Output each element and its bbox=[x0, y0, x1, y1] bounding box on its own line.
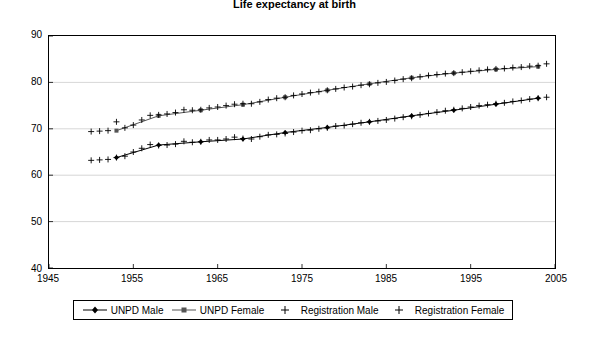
chart-legend: UNPD Male UNPD Female Registration Male bbox=[73, 300, 513, 320]
x-tick-label-1945: 1945 bbox=[28, 274, 68, 284]
y-tick-label-80: 80 bbox=[8, 77, 42, 87]
y-tick-label-90: 90 bbox=[8, 30, 42, 40]
series-registration-female bbox=[88, 61, 549, 135]
legend-item-registration-male: Registration Male bbox=[272, 305, 379, 316]
x-tick-label-1965: 1965 bbox=[197, 274, 237, 284]
x-tick-label-1955: 1955 bbox=[112, 274, 152, 284]
plot-area bbox=[48, 35, 556, 269]
legend-marker-diamond-line-icon bbox=[82, 305, 108, 315]
legend-item-unpd-female: UNPD Female bbox=[171, 305, 264, 316]
x-tick-label-1995: 1995 bbox=[451, 274, 491, 284]
legend-marker-plus-icon bbox=[272, 305, 298, 315]
x-tick-label-1975: 1975 bbox=[282, 274, 322, 284]
legend-marker-square-line-icon bbox=[171, 305, 197, 315]
legend-label-registration-female: Registration Female bbox=[415, 305, 504, 316]
plot-svg bbox=[49, 36, 555, 268]
legend-label-registration-male: Registration Male bbox=[301, 305, 379, 316]
y-tick-label-60: 60 bbox=[8, 170, 42, 180]
series-unpd-female bbox=[114, 65, 540, 133]
chart-title: Life expectancy at birth bbox=[0, 0, 589, 10]
legend-label-unpd-male: UNPD Male bbox=[111, 305, 164, 316]
chart-container: Life expectancy at birth 90 80 70 60 50 … bbox=[0, 0, 589, 339]
x-tick-label-1985: 1985 bbox=[366, 274, 406, 284]
legend-marker-plus-icon bbox=[386, 305, 412, 315]
legend-item-registration-female: Registration Female bbox=[386, 305, 504, 316]
y-tick-label-70: 70 bbox=[8, 124, 42, 134]
legend-item-unpd-male: UNPD Male bbox=[82, 305, 164, 316]
x-tick-label-2005: 2005 bbox=[536, 274, 576, 284]
legend-label-unpd-female: UNPD Female bbox=[200, 305, 264, 316]
y-tick-label-50: 50 bbox=[8, 217, 42, 227]
